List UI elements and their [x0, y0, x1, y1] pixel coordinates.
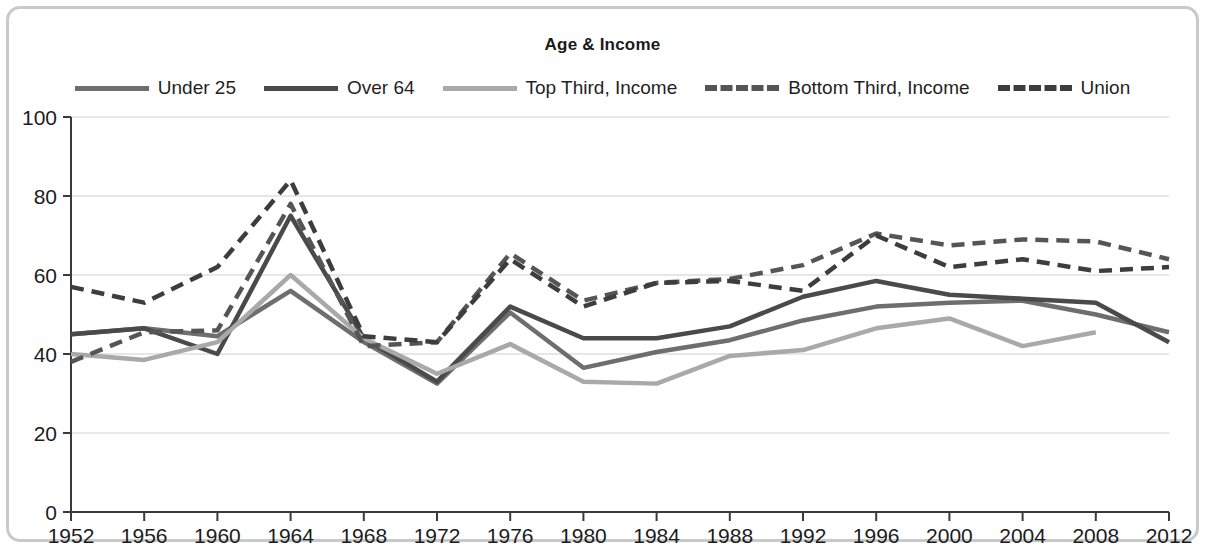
y-axis-tick-label: 20 [34, 422, 57, 445]
x-axis-tick-label: 1976 [487, 524, 534, 545]
chart-page: Age & Income Under 25Over 64Top Third, I… [0, 0, 1211, 552]
x-axis-tick-label: 1988 [706, 524, 753, 545]
line-chart-svg: 0204060801001952195619601964196819721976… [9, 9, 1202, 545]
y-axis-tick-label: 80 [34, 185, 57, 208]
x-axis-tick-label: 1956 [121, 524, 168, 545]
y-axis-tick-label: 100 [22, 106, 57, 129]
plot-area: 0204060801001952195619601964196819721976… [9, 9, 1202, 545]
x-axis-tick-label: 1984 [633, 524, 680, 545]
x-axis-tick-label: 1972 [414, 524, 461, 545]
x-axis-tick-label: 1980 [560, 524, 607, 545]
x-axis-tick-label: 1992 [780, 524, 827, 545]
x-axis-tick-label: 2004 [999, 524, 1046, 545]
y-axis-tick-label: 0 [45, 501, 57, 524]
chart-card: Age & Income Under 25Over 64Top Third, I… [6, 6, 1199, 542]
x-axis-tick-label: 1964 [267, 524, 314, 545]
x-axis-tick-label: 1996 [853, 524, 900, 545]
x-axis-tick-label: 2012 [1146, 524, 1193, 545]
x-axis-tick-label: 2000 [926, 524, 973, 545]
x-axis-tick-label: 1960 [194, 524, 241, 545]
x-axis-tick-label: 2008 [1072, 524, 1119, 545]
y-axis-tick-label: 60 [34, 264, 57, 287]
x-axis-tick-label: 1952 [48, 524, 95, 545]
y-axis-tick-label: 40 [34, 343, 57, 366]
x-axis-tick-label: 1968 [340, 524, 387, 545]
